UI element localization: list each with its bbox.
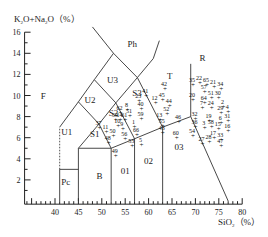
field-label-ph: Ph [127, 39, 137, 49]
point-label: 13 [156, 112, 162, 118]
point-label: 34 [217, 81, 223, 87]
data-point: +41 [142, 88, 148, 100]
y-tick-label: 4 [17, 155, 21, 164]
point-label: 33 [217, 132, 223, 138]
y-tick-label: 2 [17, 176, 21, 185]
point-label: 28 [205, 134, 211, 140]
point-label: 52 [163, 106, 169, 112]
point-label: 29 [217, 105, 223, 111]
data-point: +52 [163, 106, 169, 118]
tas-diagram: K2O+Na2O（%） SiO2（%） 24681012141640455055… [0, 0, 268, 237]
data-point: +43 [159, 125, 165, 137]
point-label: 19 [205, 113, 211, 119]
x-tick-label: 80 [238, 208, 246, 217]
y-tick-label: 14 [13, 49, 21, 58]
data-point: +20 [189, 92, 195, 104]
point-label: 1 [132, 119, 135, 125]
point-label: 65 [203, 77, 209, 83]
data-point: +47 [217, 138, 223, 150]
point-label: 36 [191, 119, 197, 125]
point-label: 24 [208, 100, 214, 106]
y-tick-label: 16 [13, 28, 21, 37]
y-tick-label: 8 [17, 113, 21, 122]
data-point: +27 [198, 136, 204, 148]
point-label: 61 [121, 112, 127, 118]
data-point: +49 [112, 148, 118, 160]
data-point: +30 [215, 90, 221, 102]
point-label: 45 [159, 92, 165, 98]
data-point: +35 [189, 77, 195, 89]
x-tick-label: 75 [215, 208, 223, 217]
point-label: 54 [189, 128, 195, 134]
point-label: 46 [175, 114, 181, 120]
point-label: 23 [135, 93, 141, 99]
data-point: +5 [139, 137, 144, 149]
point-label: 35 [189, 77, 195, 83]
field-label-f: F [41, 91, 46, 101]
x-tick-label: 60 [145, 208, 153, 217]
point-label: 22 [196, 75, 202, 81]
point-label: 53 [128, 138, 134, 144]
point-label: 51 [208, 90, 214, 96]
data-point: +45 [159, 92, 165, 104]
point-label: 15 [215, 121, 221, 127]
field-label-pc: Pc [61, 177, 70, 187]
point-label: 57 [201, 84, 207, 90]
point-label: 48 [105, 135, 111, 141]
point-label: 56 [121, 131, 127, 137]
point-label: 4 [226, 104, 229, 110]
field-label-02: 02 [144, 156, 153, 166]
point-label: 60 [173, 130, 179, 136]
point-label: 37 [95, 120, 101, 126]
y-tick-label: 12 [13, 70, 21, 79]
data-point: +3 [202, 120, 207, 132]
point-label: 6 [219, 115, 222, 121]
data-point: +12 [152, 95, 158, 107]
point-label: 41 [142, 88, 148, 94]
point-label: 49 [112, 148, 118, 154]
data-point: +60 [173, 130, 179, 142]
point-label: 20 [189, 92, 195, 98]
data-point: +28 [205, 134, 211, 146]
point-label: 62 [117, 105, 123, 111]
point-label: 9 [120, 121, 123, 127]
x-tick-label: 50 [98, 208, 106, 217]
point-label: 3 [202, 120, 205, 126]
field-label-u3: U3 [107, 75, 118, 85]
data-point: +56 [121, 131, 127, 143]
point-label: 2 [221, 99, 224, 105]
point-label: 27 [198, 136, 204, 142]
point-label: 43 [159, 125, 165, 131]
y-tick-label: 10 [13, 92, 21, 101]
point-label: 5 [139, 137, 142, 143]
x-tick-label: 65 [168, 208, 176, 217]
field-label-b: B [96, 171, 102, 181]
point-label: 42 [161, 81, 167, 87]
point-label: 10 [114, 118, 120, 124]
x-tick-label: 55 [121, 208, 129, 217]
point-label: 16 [224, 123, 230, 129]
point-label: 30 [215, 90, 221, 96]
data-point: +59 [138, 111, 144, 123]
point-label: 66 [133, 127, 139, 133]
point-label: 47 [217, 138, 223, 144]
y-axis-title: K2O+Na2O（%） [14, 14, 80, 25]
field-label-u1: U1 [61, 127, 72, 137]
point-label: 12 [152, 95, 158, 101]
field-label-03: 03 [175, 142, 185, 152]
field-label-t: T [167, 71, 173, 81]
point-label: 7 [200, 100, 203, 106]
x-axis-title: SiO2（%） [218, 217, 260, 228]
field-label-u2: U2 [85, 95, 96, 105]
y-tick-label: 6 [17, 134, 21, 143]
data-point: +46 [175, 114, 181, 126]
data-point: +53 [128, 138, 134, 150]
data-point: +48 [105, 135, 111, 147]
point-label: 50 [110, 128, 116, 134]
point-label: 58 [208, 119, 214, 125]
x-tick-label: 40 [51, 208, 59, 217]
x-tick-label: 45 [74, 208, 82, 217]
field-label-r: R [199, 53, 205, 63]
point-label: 59 [138, 111, 144, 117]
point-label: 55 [159, 118, 165, 124]
